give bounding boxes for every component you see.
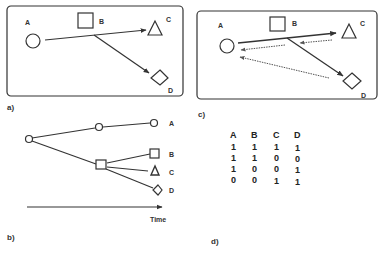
node-a-label: A (25, 19, 30, 26)
cell: 1 (274, 142, 279, 152)
cell: 1 (295, 143, 300, 153)
node-b-label: B (292, 20, 297, 27)
table-row: 1 1 1 1 (231, 142, 300, 153)
branch-lower-d (106, 169, 153, 188)
branch-root-upper (32, 128, 95, 138)
header-a: A (230, 130, 237, 140)
branch-upper-a (103, 123, 150, 127)
panel-c: A B C D c) (197, 11, 377, 119)
branch-lower-b (107, 154, 150, 163)
panel-b: A B C D Time b) (7, 120, 174, 243)
table-header: A B C D (230, 130, 301, 140)
leaf-d-label: D (169, 187, 174, 194)
figure-canvas: A B C D a) A B C D c) (0, 0, 379, 253)
square-icon (78, 13, 93, 28)
node-c-label: C (166, 16, 171, 23)
panel-c-caption: c) (198, 110, 205, 119)
header-d: D (294, 130, 301, 140)
time-axis-label: Time (150, 216, 166, 223)
edge-c-b-dotted (300, 40, 332, 43)
cell: 1 (274, 176, 279, 186)
cell: 1 (231, 153, 236, 163)
cell: 1 (295, 177, 300, 187)
panel-a: A B C D a) (7, 6, 183, 112)
cell: 0 (252, 164, 257, 174)
cell: 1 (252, 142, 257, 152)
node-d-label: D (168, 87, 173, 94)
header-c: C (273, 130, 280, 140)
cell: 0 (274, 164, 279, 174)
edge-b-d (94, 35, 149, 73)
diamond-icon (343, 73, 361, 89)
cell: 0 (295, 154, 300, 164)
cell: 1 (295, 165, 300, 175)
diamond-icon (151, 70, 168, 85)
cell: 0 (274, 153, 279, 163)
leaf-b-label: B (169, 151, 174, 158)
root-node-icon (26, 136, 33, 143)
internal-square-icon (96, 160, 106, 169)
node-a-label: A (218, 22, 223, 29)
panel-d-caption: d) (211, 237, 219, 246)
table-row: 1 1 0 0 (231, 153, 300, 164)
cell: 0 (252, 175, 257, 185)
node-c-label: C (360, 20, 365, 27)
branch-lower-c (107, 167, 148, 171)
panel-d: A B C D 1 1 1 1 1 1 0 0 1 0 0 1 0 0 1 1 (211, 130, 301, 246)
circle-icon (26, 34, 40, 48)
edge-a-c (45, 30, 146, 40)
circle-icon (220, 39, 234, 53)
triangle-icon (151, 166, 159, 175)
cell: 1 (252, 153, 257, 163)
edge-d-a-dotted (240, 57, 329, 78)
table-row: 1 0 0 1 (231, 164, 300, 175)
edge-b-d (287, 38, 343, 76)
edge-b-a-dotted (241, 45, 285, 50)
node-b-label: B (99, 18, 104, 25)
branch-root-lower (32, 141, 96, 164)
diamond-icon (153, 185, 162, 195)
square-icon (150, 149, 159, 158)
panel-b-caption: b) (7, 233, 15, 242)
leaf-c-label: C (169, 169, 174, 176)
panel-c-frame (197, 11, 377, 99)
triangle-icon (342, 24, 356, 38)
header-b: B (251, 130, 258, 140)
table-row: 0 0 1 1 (231, 175, 300, 187)
circle-icon (151, 120, 158, 127)
cell: 0 (231, 175, 236, 185)
cell: 1 (231, 164, 236, 174)
leaf-a-label: A (169, 120, 174, 127)
triangle-icon (148, 21, 162, 35)
panel-a-caption: a) (7, 103, 14, 112)
node-d-label: D (361, 92, 366, 99)
cell: 1 (231, 142, 236, 152)
square-icon (270, 17, 285, 31)
internal-node-icon (96, 124, 103, 131)
